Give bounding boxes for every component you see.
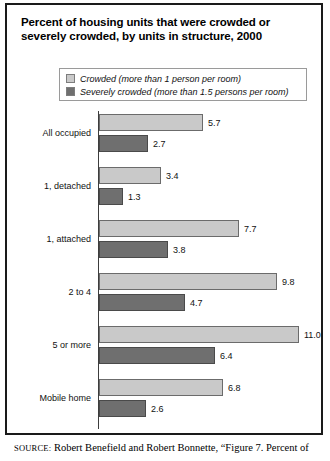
bar-severely-crowded [99,347,215,364]
figure-container: Percent of housing units that were crowd… [0,0,330,461]
category-label: Mobile home [7,393,91,403]
bar-value-label: 6.8 [228,383,241,393]
bar-value-label: 11.0 [304,330,321,340]
plot-area: All occupied5.72.71, detached3.41.31, at… [7,109,325,431]
bar-row: 2.6 [99,400,164,417]
bar-row: 7.7 [99,220,257,237]
figure-frame: Percent of housing units that were crowd… [5,3,323,435]
bar-row: 5.7 [99,114,221,131]
category-label: All occupied [7,128,91,138]
bar-value-label: 2.6 [151,404,164,414]
bar-group: 5 or more11.06.4 [7,321,325,374]
bar-group: 2 to 49.84.7 [7,268,325,321]
bar-value-label: 3.4 [166,171,179,181]
category-label: 1, detached [7,181,91,191]
bar-group: All occupied5.72.7 [7,109,325,162]
bar-group: 1, detached3.41.3 [7,162,325,215]
bar-severely-crowded [99,294,185,311]
legend-label-crowded: Crowded (more than 1 person per room) [80,74,241,84]
bar-row: 6.8 [99,379,241,396]
bar-value-label: 4.7 [190,298,203,308]
severely-crowded-swatch [66,87,75,96]
source-note: SOURCE: Robert Benefield and Robert Bonn… [14,441,320,455]
bar-severely-crowded [99,135,148,152]
bar-value-label: 3.8 [173,245,186,255]
bar-crowded [99,273,277,290]
category-label: 1, attached [7,234,91,244]
bar-row: 3.4 [99,167,179,184]
bar-value-label: 5.7 [208,118,221,128]
bar-value-label: 2.7 [153,139,166,149]
bar-row: 9.8 [99,273,295,290]
bar-value-label: 9.8 [282,277,295,287]
bar-row: 6.4 [99,347,233,364]
bar-row: 11.0 [99,326,321,343]
bar-crowded [99,379,223,396]
legend-label-severely-crowded: Severely crowded (more than 1.5 persons … [80,87,289,97]
bar-crowded [99,326,299,343]
bar-row: 3.8 [99,241,186,258]
category-label: 5 or more [7,340,91,350]
bar-value-label: 6.4 [220,351,233,361]
crowded-swatch [66,74,75,83]
bar-severely-crowded [99,188,123,205]
bar-severely-crowded [99,400,146,417]
bar-value-label: 1.3 [128,192,141,202]
bar-crowded [99,114,203,131]
chart-title: Percent of housing units that were crowd… [21,15,313,43]
bar-row: 4.7 [99,294,203,311]
legend-item-severely-crowded: Severely crowded (more than 1.5 persons … [66,85,289,98]
category-label: 2 to 4 [7,287,91,297]
bar-severely-crowded [99,241,168,258]
bar-crowded [99,220,239,237]
source-text: Robert Benefield and Robert Bonnette, “F… [54,442,309,453]
bar-row: 1.3 [99,188,141,205]
bar-group: 1, attached7.73.8 [7,215,325,268]
chart-legend: Crowded (more than 1 person per room) Se… [59,68,307,101]
bar-row: 2.7 [99,135,166,152]
legend-item-crowded: Crowded (more than 1 person per room) [66,72,241,85]
source-tag: SOURCE: [14,443,51,453]
bar-crowded [99,167,161,184]
bar-value-label: 7.7 [244,224,257,234]
bar-group: Mobile home6.82.6 [7,374,325,427]
